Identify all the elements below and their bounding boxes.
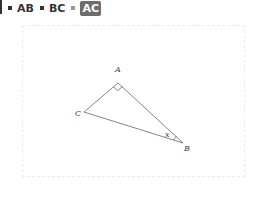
triangle-diagram: A C B x [0, 0, 253, 199]
label-a: A [114, 65, 121, 74]
angle-arc-b [174, 137, 177, 141]
label-c: C [75, 109, 81, 118]
angle-label-x: x [165, 130, 170, 139]
right-angle-marker [114, 87, 123, 91]
label-b: B [183, 144, 190, 153]
